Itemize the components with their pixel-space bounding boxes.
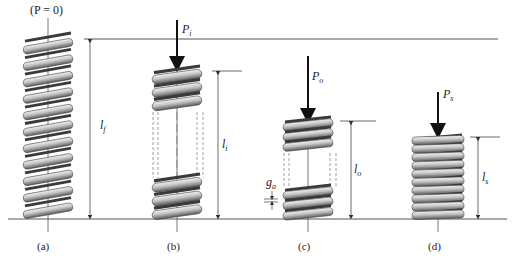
free-load-label: (P = 0): [30, 3, 63, 18]
li-label: li: [222, 137, 228, 153]
spring-a-free: [23, 18, 74, 232]
po-label: Po: [312, 69, 323, 85]
pi-label: Pi: [182, 22, 192, 38]
lf-label: lf: [100, 118, 106, 134]
caption-b: (b): [167, 240, 180, 252]
ps-label: Ps: [443, 87, 453, 103]
lo-label: lo: [354, 162, 361, 178]
ls-label: ls: [482, 170, 488, 186]
caption-a: (a): [37, 240, 49, 252]
spring-compression-diagram: [0, 0, 517, 267]
dimension-ga: [264, 191, 278, 210]
spring-b-installed: [152, 20, 203, 232]
ga-label: ga: [266, 175, 276, 191]
caption-c: (c): [298, 240, 310, 252]
spring-d-solid: [412, 92, 464, 232]
caption-d: (d): [428, 240, 441, 252]
spring-c-operating: [264, 56, 336, 232]
